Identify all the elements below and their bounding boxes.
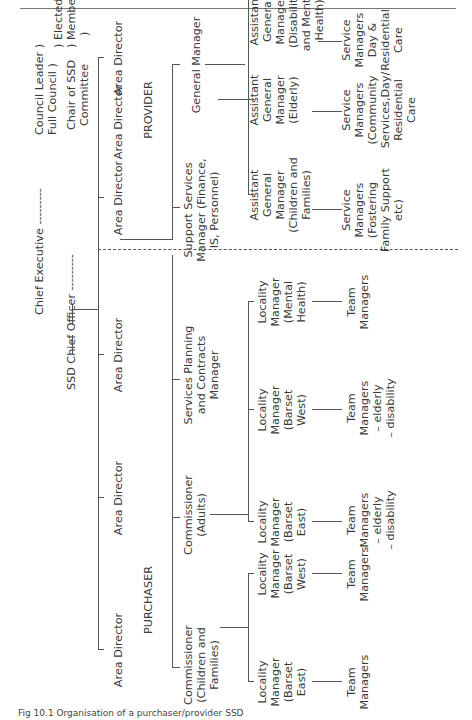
connector <box>120 239 172 240</box>
area-director-3: Area Director <box>112 305 125 405</box>
area-director-2: Area Director <box>112 448 125 548</box>
org-chart: Chief Executive --------- SSD Chief Offi… <box>0 0 472 720</box>
support-services-manager: Support Services Manager (Finance, IS, P… <box>182 140 221 280</box>
service-managers-day-residential: Service Managers Day & Residential Care <box>340 0 405 90</box>
locality-manager-adults-barset-east: Locality Manager (Barset East) <box>256 484 308 560</box>
team-managers-adults-west: Team Managers – elderly – disability <box>345 368 397 448</box>
purchaser-label: PURCHASER <box>142 550 155 650</box>
team-managers-children-east: Team Managers <box>345 644 371 720</box>
general-manager: General Manager <box>190 0 203 130</box>
council-leader: Council Leader ) <box>33 44 46 135</box>
locality-manager-mental-health: Locality Manager (Mental Health) <box>256 264 308 340</box>
area-director-6: Area Director <box>112 8 125 108</box>
services-planning-manager: Services Planning and Contracts Manager <box>182 310 221 440</box>
members-label: ) Members <box>65 0 78 48</box>
children-locality-spine <box>248 574 249 682</box>
adults-locality-spine <box>248 302 249 522</box>
locality-manager-adults-barset-west: Locality Manager (Barset West) <box>256 372 308 448</box>
team-managers-mental-health: Team Managers <box>345 264 371 340</box>
connector <box>72 305 73 325</box>
service-managers-fostering: Service Managers (Fostering Family Suppo… <box>340 155 405 265</box>
provider-level2-spine <box>172 65 173 240</box>
provider-label: PROVIDER <box>142 60 155 160</box>
chief-executive: Chief Executive --------- <box>33 188 46 315</box>
connector <box>72 335 73 355</box>
chair-ssd-committee: Chair of SSD Committee <box>65 50 91 140</box>
full-council: Full Council ) <box>46 63 59 135</box>
agm-disability-mental-health: Assistant General Manager (Disability an… <box>248 0 326 70</box>
paren-close: ) <box>78 32 91 36</box>
elected-label: ) Elected <box>52 0 65 48</box>
area-director-1: Area Director <box>112 600 125 700</box>
locality-manager-children-barset-east: Locality Manager (Barset East) <box>256 644 308 720</box>
team-managers-adults-east: Team Managers – elderly – disability <box>345 480 397 560</box>
commissioner-adults: Commissioner (Adults) <box>182 460 208 570</box>
agm-children-families: Assistant General Manager (Children and … <box>248 140 313 250</box>
connector <box>72 309 98 310</box>
purchaser-level2-spine <box>172 255 173 668</box>
commissioner-children: Commissioner (Children and Families) <box>182 610 221 720</box>
